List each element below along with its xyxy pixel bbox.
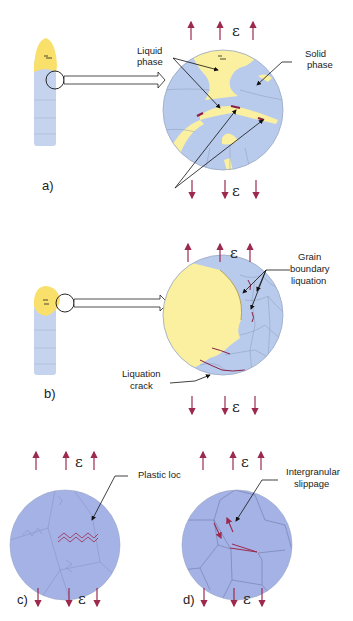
strain-arrows-top-d — [203, 452, 261, 470]
label-solid-1: Solid — [305, 48, 326, 59]
strain-arrows-bottom-a — [192, 180, 256, 198]
label-intergranular-1: Intergranular — [286, 466, 340, 477]
panel-a: ε ε Liquid phase Solid phase a) — [34, 22, 333, 200]
strain-symbol-bottom-b: ε — [232, 398, 240, 416]
label-plastic-loc: Plastic loc — [138, 469, 181, 480]
panel-c: ε ε Plastic loc c) — [10, 452, 181, 608]
microstructure-d — [180, 490, 292, 600]
panel-d: ε ε Intergranular slippage d) — [180, 452, 340, 608]
panel-label-c: c) — [17, 592, 28, 607]
weld-bead-a — [34, 38, 57, 146]
magnify-arrow-b — [74, 295, 168, 311]
label-intergranular-2: slippage — [294, 478, 329, 489]
strain-arrows-bottom-b — [192, 396, 255, 414]
weld-bead-b — [34, 286, 60, 375]
strain-symbol-top-a: ε — [232, 22, 240, 40]
strain-arrows-top-a — [191, 22, 253, 40]
microstructure-c — [10, 490, 120, 600]
panel-b: ε ε Grain boundary liquation Liquation c… — [34, 244, 330, 416]
strain-symbol-bottom-a: ε — [232, 182, 240, 200]
label-gb-3: liquation — [291, 275, 326, 286]
strain-symbol-top-b: ε — [230, 244, 238, 262]
label-liquation-crack-1: Liquation — [122, 368, 161, 379]
label-gb-1: Grain — [298, 251, 321, 262]
label-liquid-2: phase — [137, 56, 163, 67]
strain-symbol-top-d: ε — [241, 453, 249, 471]
strain-symbol-top-c: ε — [75, 453, 83, 471]
label-liquid-1: Liquid — [137, 45, 162, 56]
label-gb-2: boundary — [290, 263, 330, 274]
label-liquation-crack-2: crack — [130, 380, 153, 391]
magnified-microstructure-a — [163, 50, 283, 175]
panel-label-d: d) — [183, 592, 195, 607]
panel-label-a: a) — [42, 178, 54, 193]
strain-symbol-bottom-d: ε — [243, 590, 251, 608]
magnify-arrow-a — [64, 72, 165, 88]
figure-canvas: ε ε Liquid phase Solid phase a) — [0, 0, 353, 621]
strain-symbol-bottom-c: ε — [78, 590, 86, 608]
strain-arrows-top-c — [36, 452, 94, 470]
panel-label-b: b) — [44, 386, 56, 401]
label-solid-2: phase — [307, 59, 333, 70]
